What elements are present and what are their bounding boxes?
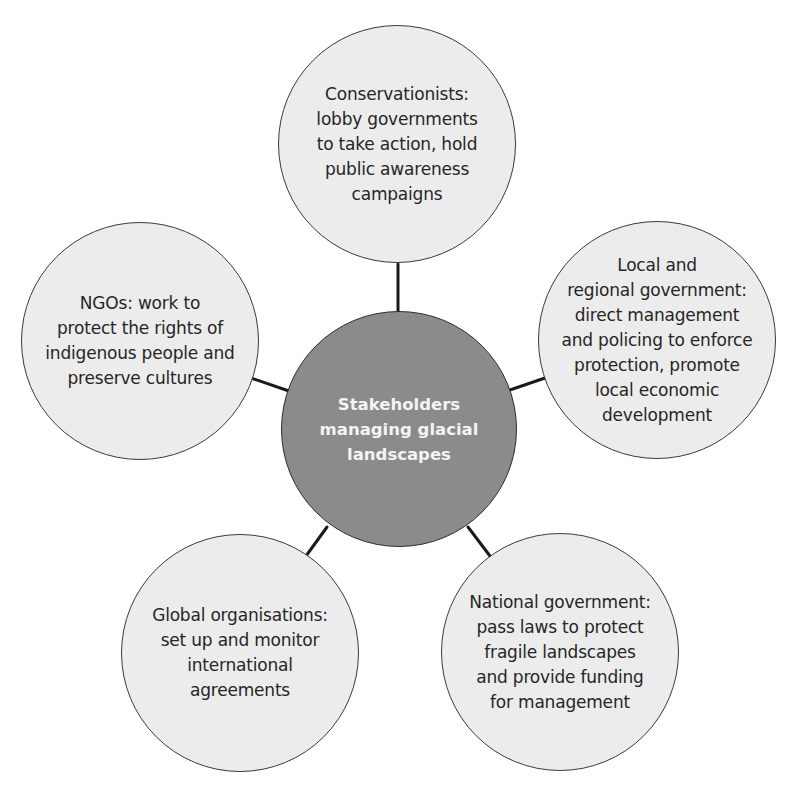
- node-text-line: and provide funding: [476, 665, 643, 690]
- hub-title-line: Stakeholders: [338, 392, 460, 417]
- node-text-line: indigenous people and: [45, 341, 234, 366]
- node-text-line: set up and monitor: [161, 628, 320, 653]
- node-conservationists-text: Conservationists: lobby governments to t…: [316, 82, 477, 207]
- node-ngos-text: NGOs: work to protect the rights of indi…: [45, 291, 234, 391]
- node-text-line: public awareness: [325, 157, 469, 182]
- node-conservationists: Conservationists: lobby governments to t…: [278, 25, 516, 263]
- node-text-line: protect the rights of: [57, 316, 223, 341]
- node-text-line: Global organisations:: [152, 603, 328, 628]
- node-text-line: Local and: [617, 253, 697, 278]
- node-text-line: and policing to enforce: [562, 328, 753, 353]
- node-global-organisations-text: Global organisations: set up and monitor…: [152, 603, 328, 703]
- node-text-line: for management: [490, 690, 630, 715]
- stakeholder-diagram: Conservationists: lobby governments to t…: [0, 0, 788, 786]
- node-national-government: National government: pass laws to protec…: [441, 533, 679, 771]
- node-local-regional-government: Local and regional government: direct ma…: [538, 221, 776, 459]
- node-text-line: international: [187, 653, 293, 678]
- node-text-line: National government:: [469, 590, 651, 615]
- node-text-line: lobby governments: [316, 107, 477, 132]
- node-text-line: regional government:: [567, 278, 747, 303]
- connector-local-regional-government: [507, 378, 545, 391]
- node-text-line: to take action, hold: [317, 132, 477, 157]
- hub-node: Stakeholders managing glacial landscapes: [281, 311, 517, 547]
- node-text-line: Conservationists:: [325, 82, 469, 107]
- hub-node-text: Stakeholders managing glacial landscapes: [320, 392, 479, 467]
- node-text-line: development: [602, 403, 712, 428]
- node-text-line: campaigns: [352, 182, 443, 207]
- connector-global-organisations: [306, 527, 327, 556]
- node-ngos: NGOs: work to protect the rights of indi…: [21, 222, 259, 460]
- node-text-line: NGOs: work to: [80, 291, 200, 316]
- node-text-line: agreements: [190, 678, 290, 703]
- node-text-line: direct management: [575, 303, 739, 328]
- connector-national-government: [468, 527, 490, 556]
- node-text-line: preserve cultures: [68, 366, 213, 391]
- node-local-regional-government-text: Local and regional government: direct ma…: [562, 253, 753, 428]
- hub-title-line: managing glacial: [320, 417, 479, 442]
- node-text-line: protection, promote: [574, 353, 740, 378]
- node-text-line: pass laws to protect: [476, 615, 643, 640]
- hub-title-line: landscapes: [347, 442, 451, 467]
- node-text-line: local economic: [595, 378, 719, 403]
- node-global-organisations: Global organisations: set up and monitor…: [121, 534, 359, 772]
- node-text-line: fragile landscapes: [484, 640, 635, 665]
- connector-ngos: [251, 378, 289, 391]
- node-national-government-text: National government: pass laws to protec…: [469, 590, 651, 715]
